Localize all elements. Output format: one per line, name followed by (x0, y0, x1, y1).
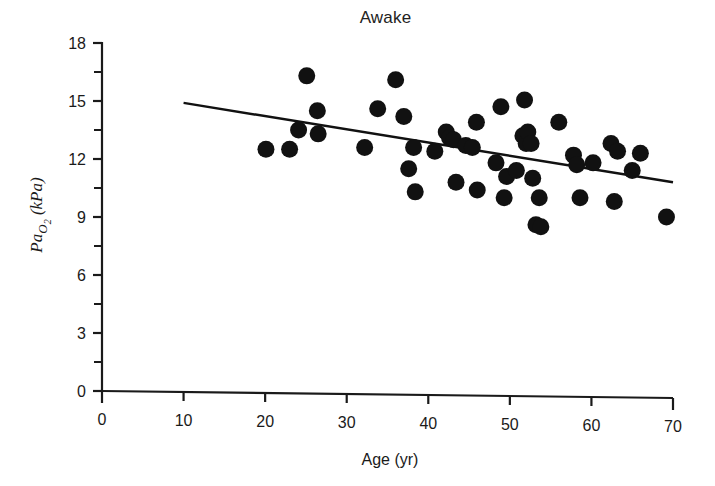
data-point (532, 218, 549, 235)
data-point (356, 139, 373, 156)
data-point (400, 160, 417, 177)
axes-group (93, 42, 673, 410)
data-point (550, 114, 567, 131)
data-point (606, 193, 623, 210)
data-point (624, 162, 641, 179)
data-point (257, 141, 274, 158)
data-point (523, 135, 540, 152)
data-point (487, 154, 504, 171)
data-point (516, 92, 533, 109)
x-tick-label: 40 (419, 415, 437, 432)
x-tick-label: 10 (175, 412, 193, 429)
data-point (469, 181, 486, 198)
data-point (464, 139, 481, 156)
data-point (395, 108, 412, 125)
data-point (448, 174, 465, 191)
y-tick-label: 9 (77, 209, 86, 226)
y-axis-title-main: Pa (27, 234, 46, 254)
data-point (369, 100, 386, 117)
y-axis-title: PaO2 (kPa) (27, 177, 53, 254)
data-point (572, 189, 589, 206)
data-point (387, 71, 404, 88)
y-tick-label: 15 (68, 93, 86, 110)
data-point (496, 189, 513, 206)
data-point (585, 154, 602, 171)
svg-text:PaO2 (kPa): PaO2 (kPa) (27, 177, 53, 254)
regression-trend-line (184, 103, 673, 182)
x-tick-label: 20 (256, 413, 274, 430)
tick-labels-group: 0369121518010203040506070 (68, 35, 682, 435)
y-tick-label: 18 (68, 35, 86, 52)
data-point (426, 143, 443, 160)
data-point (508, 162, 525, 179)
data-point (609, 143, 626, 160)
scatter-plot: 0369121518010203040506070 Age (yr) PaO2 … (0, 0, 715, 486)
y-tick-label: 3 (77, 325, 86, 342)
y-tick-label: 12 (68, 151, 86, 168)
data-point (298, 67, 315, 84)
data-point (309, 102, 326, 119)
data-point (468, 114, 485, 131)
data-point (632, 145, 649, 162)
x-tick-label: 70 (664, 418, 682, 435)
data-point (407, 183, 424, 200)
y-axis-title-units: (kPa) (27, 177, 46, 219)
data-point (492, 98, 509, 115)
data-point (658, 209, 675, 226)
figure-container: Awake 0369121518010203040506070 Age (yr)… (0, 0, 715, 486)
x-tick-label: 50 (501, 416, 519, 433)
x-axis-line (102, 391, 673, 398)
x-tick-label: 0 (98, 411, 107, 428)
data-point (524, 170, 541, 187)
data-point (405, 139, 422, 156)
x-tick-label: 60 (583, 417, 601, 434)
y-tick-label: 0 (77, 383, 86, 400)
y-tick-label: 6 (77, 267, 86, 284)
x-axis-title: Age (yr) (362, 451, 419, 468)
trend-line-group (184, 103, 673, 182)
data-point (281, 141, 298, 158)
x-tick-label: 30 (338, 414, 356, 431)
data-point (531, 189, 548, 206)
data-point (568, 156, 585, 173)
data-point (310, 125, 327, 142)
data-point (290, 122, 307, 139)
data-points-group (257, 67, 675, 235)
